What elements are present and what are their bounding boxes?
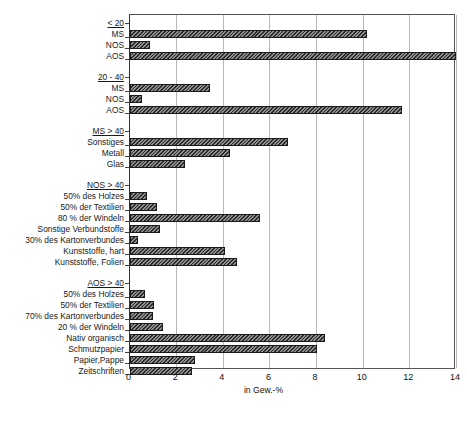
y-tick-label: NOS [106, 95, 124, 104]
bar [130, 301, 154, 309]
table-row [130, 290, 457, 298]
y-tick-label: 20 % der Windeln [58, 323, 124, 332]
table-row [130, 356, 457, 364]
y-axis-tick [125, 91, 129, 92]
bar [130, 95, 143, 103]
table-row [130, 323, 457, 331]
y-tick-label: 50% der Textilien [60, 203, 124, 212]
x-tick-label: 14 [450, 372, 460, 382]
x-tick-label: 6 [266, 372, 271, 382]
table-row [130, 301, 457, 309]
x-tick-label: 8 [313, 372, 318, 382]
table-row [130, 345, 457, 353]
table-row [130, 236, 457, 244]
table-row [130, 203, 457, 211]
y-group-header: < 20 [107, 19, 124, 28]
y-tick-label: NOS [106, 41, 124, 50]
bar [130, 247, 226, 255]
y-axis-tick [125, 308, 129, 309]
gridline [456, 15, 457, 368]
bar [130, 312, 153, 320]
y-tick-label: AOS [106, 52, 124, 61]
y-axis-tick [125, 167, 129, 168]
table-row [130, 192, 457, 200]
bar [130, 290, 145, 298]
bar [130, 225, 160, 233]
bar [130, 356, 195, 364]
bar [130, 138, 289, 146]
y-group-header: 20 - 40 [98, 73, 124, 82]
y-group-header: MS > 40 [93, 127, 124, 136]
bar [130, 160, 186, 168]
x-axis-title: in Gew.-% [0, 385, 467, 395]
y-axis-tick [125, 210, 129, 211]
bar [130, 106, 403, 114]
table-row [130, 95, 457, 103]
y-group-header: NOS > 40 [87, 181, 124, 190]
bar [130, 41, 151, 49]
y-axis-tick [125, 156, 129, 157]
x-axis-tick-labels: 02468101214 [0, 372, 467, 386]
y-tick-label: Kunststoffe, hart [63, 247, 124, 256]
y-tick-label: Metall [102, 149, 124, 158]
bar [130, 203, 158, 211]
y-axis-tick [125, 145, 129, 146]
y-axis-tick [125, 352, 129, 353]
y-axis-tick [125, 265, 129, 266]
plot-area [129, 14, 456, 369]
table-row [130, 52, 457, 60]
y-tick-label: Glas [107, 160, 124, 169]
bar-rows [130, 15, 455, 368]
y-axis-tick [125, 199, 129, 200]
y-tick-label: Sonstige Verbundstoffe [38, 225, 124, 234]
y-tick-label: Kunststoffe, Folien [55, 258, 124, 267]
y-axis-tick [125, 59, 129, 60]
y-axis-tick [125, 297, 129, 298]
y-axis-tick [125, 254, 129, 255]
table-row [130, 41, 457, 49]
bar [130, 236, 138, 244]
table-row [130, 149, 457, 157]
y-tick-label: 50% der Textilien [60, 301, 124, 310]
table-row [130, 334, 457, 342]
x-tick-label: 10 [357, 372, 367, 382]
y-axis-tick [125, 37, 129, 38]
x-tick-label: 12 [403, 372, 413, 382]
y-axis-tick [125, 48, 129, 49]
bar [130, 345, 318, 353]
y-axis-tick [125, 319, 129, 320]
y-tick-label: Nativ organisch [66, 334, 124, 343]
bar [130, 258, 237, 266]
x-tick-label: 4 [219, 372, 224, 382]
y-tick-label: 50% des Holzes [63, 192, 124, 201]
y-tick-label: 30% des Kartonverbundes [25, 236, 124, 245]
y-tick-label: 70% des Kartonverbundes [25, 312, 124, 321]
table-row [130, 160, 457, 168]
table-row [130, 138, 457, 146]
y-tick-label: MS [111, 84, 124, 93]
bar [130, 323, 164, 331]
y-axis-tick [125, 131, 129, 132]
y-axis-tick [125, 330, 129, 331]
y-axis-tick [125, 23, 129, 24]
y-tick-label: MS [111, 30, 124, 39]
bar [130, 149, 230, 157]
y-group-header: AOS > 40 [87, 279, 124, 288]
y-tick-label: Papier,Pappe [74, 356, 124, 365]
x-tick-label: 2 [173, 372, 178, 382]
y-axis-tick [125, 232, 129, 233]
bar [130, 52, 457, 60]
bar [130, 84, 210, 92]
table-row [130, 214, 457, 222]
y-tick-label: Schmutzpapier [68, 345, 124, 354]
table-row [130, 106, 457, 114]
y-tick-label: Sonstiges [87, 138, 124, 147]
table-row [130, 30, 457, 38]
y-axis-labels: < 20MSNOSAOS20 - 40MSNOSAOSMS > 40Sonsti… [0, 14, 127, 369]
y-tick-label: 80 % der Windeln [58, 214, 124, 223]
y-axis-tick [125, 185, 129, 186]
table-row [130, 258, 457, 266]
y-tick-label: AOS [106, 106, 124, 115]
x-tick-label: 0 [126, 372, 131, 382]
y-axis-tick [125, 363, 129, 364]
